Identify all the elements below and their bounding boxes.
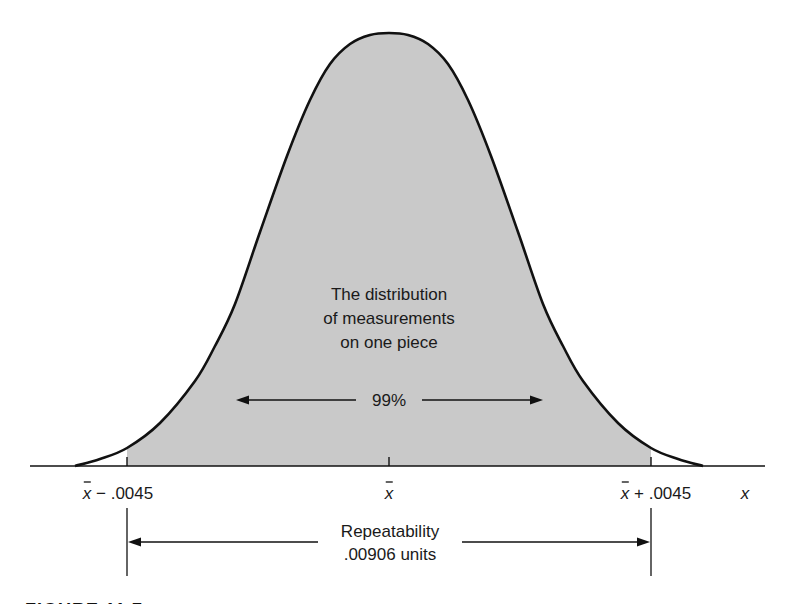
tick-mean-label: x [384,484,394,503]
tick-upper-limit-label: x + .0045 [620,484,691,503]
distribution-label-line-2: of measurements [323,309,454,328]
ninety-nine-percent-label: 99% [372,391,406,410]
arrowhead-right-icon [637,538,650,547]
tick-lower-limit-label: x − .0045 [82,484,153,503]
figure-caption: FIGURE 11.7 [25,600,143,604]
arrowhead-left-icon [128,538,141,547]
repeatability-dimension-arrow [127,508,651,576]
x-axis-label: x [740,484,750,503]
repeatability-diagram: x − .0045xx + .0045 x The distribution o… [0,0,796,604]
repeatability-label: Repeatability [341,522,440,541]
distribution-label-line-3: on one piece [340,333,437,352]
repeatability-value: .00906 units [344,545,437,564]
distribution-label-line-1: The distribution [331,285,447,304]
